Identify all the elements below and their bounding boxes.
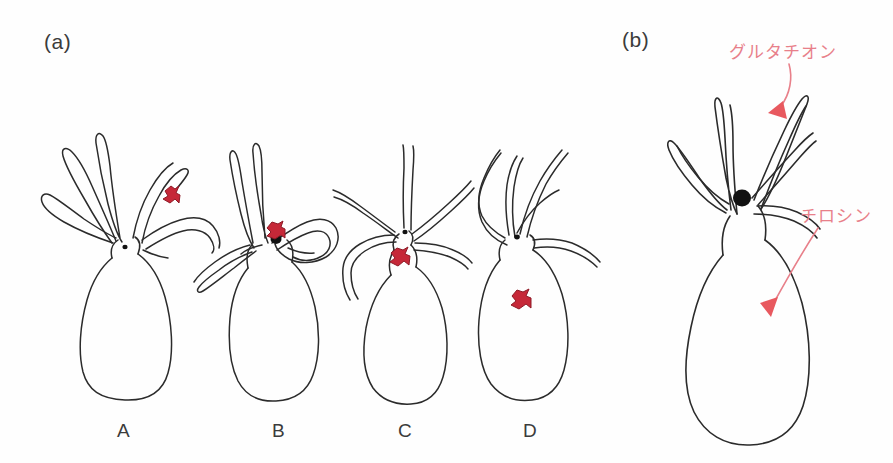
specimen-label-a: A xyxy=(117,420,130,442)
annotation-label-glutathione: グルタチオン xyxy=(729,38,837,63)
specimen-d-body xyxy=(479,250,568,400)
specimen-c-tentacle-2b xyxy=(334,197,398,238)
specimen-d-tentacle-5b xyxy=(534,247,597,267)
specimen-b-body xyxy=(229,262,318,401)
panel-b-neck-right xyxy=(758,206,766,240)
hydra-illustration-layer xyxy=(0,0,893,463)
glutathione-arrow-shaft xyxy=(781,64,791,106)
annotation-label-tyrosine: チロシン xyxy=(800,202,872,227)
specimen-label-d: D xyxy=(523,420,537,442)
specimen-a-tentacle-2 xyxy=(63,149,116,243)
specimen-c-tentacle-3b xyxy=(411,146,414,230)
specimen-c-tentacle-5 xyxy=(415,243,472,263)
panel-label-b: (b) xyxy=(622,28,649,52)
specimen-d-mouth xyxy=(514,235,520,240)
panel-label-a: (a) xyxy=(44,30,71,54)
specimen-d-tentacle-2 xyxy=(506,156,517,235)
specimen-c-tentacle-1 xyxy=(343,235,394,300)
specimen-a-neck-right xyxy=(135,237,140,254)
specimen-c-tentacle-3 xyxy=(403,145,404,228)
specimen-a-body xyxy=(80,254,171,400)
specimen-d-tentacle-1b xyxy=(479,153,507,245)
specimen-c-red-marker xyxy=(390,247,410,266)
panel-b-neck-left xyxy=(722,216,730,255)
panel-b-tentacle-4b xyxy=(758,141,816,205)
tyrosine-arrow-shaft xyxy=(772,228,818,306)
annotation-arrows xyxy=(772,64,818,306)
specimen-a-red-marker xyxy=(163,186,180,203)
panel-b-body xyxy=(686,240,809,445)
tyrosine-arrowhead xyxy=(760,297,778,317)
specimen-b-drawing xyxy=(194,144,338,402)
specimen-a-mouth xyxy=(122,245,127,249)
figure-container: (a) (b) A B C D グルタチオン チロシン xyxy=(0,0,893,463)
specimen-d-drawing xyxy=(479,150,601,400)
specimen-a-tentacle-5b xyxy=(146,230,214,253)
specimen-c-drawing xyxy=(333,145,474,404)
specimen-c-mouth xyxy=(402,230,407,234)
glutathione-arrowhead xyxy=(768,101,787,119)
specimen-c-body xyxy=(364,267,447,404)
specimen-c-tentacle-4 xyxy=(412,181,471,234)
specimen-label-b: B xyxy=(272,420,285,442)
specimen-c-tentacle-2 xyxy=(333,190,395,232)
specimen-label-c: C xyxy=(398,420,412,442)
specimen-a-tentacle-6 xyxy=(143,250,168,258)
specimen-c-neck-right xyxy=(411,245,417,267)
specimen-a-tentacle-1 xyxy=(41,194,116,243)
specimen-b-tentacle-3 xyxy=(253,144,268,243)
specimen-d-red-marker xyxy=(511,289,531,309)
specimen-c-tentacle-4b xyxy=(414,188,474,241)
specimen-b-tentacle-1b xyxy=(198,251,256,292)
panel-b-hydra-drawing xyxy=(668,96,820,445)
specimen-b-red-marker xyxy=(267,221,285,239)
specimen-a-drawing xyxy=(41,134,219,400)
specimen-d-tentacle-4 xyxy=(517,190,559,233)
panel-b-mouth xyxy=(733,190,751,207)
specimen-b-tentacle-2 xyxy=(230,151,254,248)
